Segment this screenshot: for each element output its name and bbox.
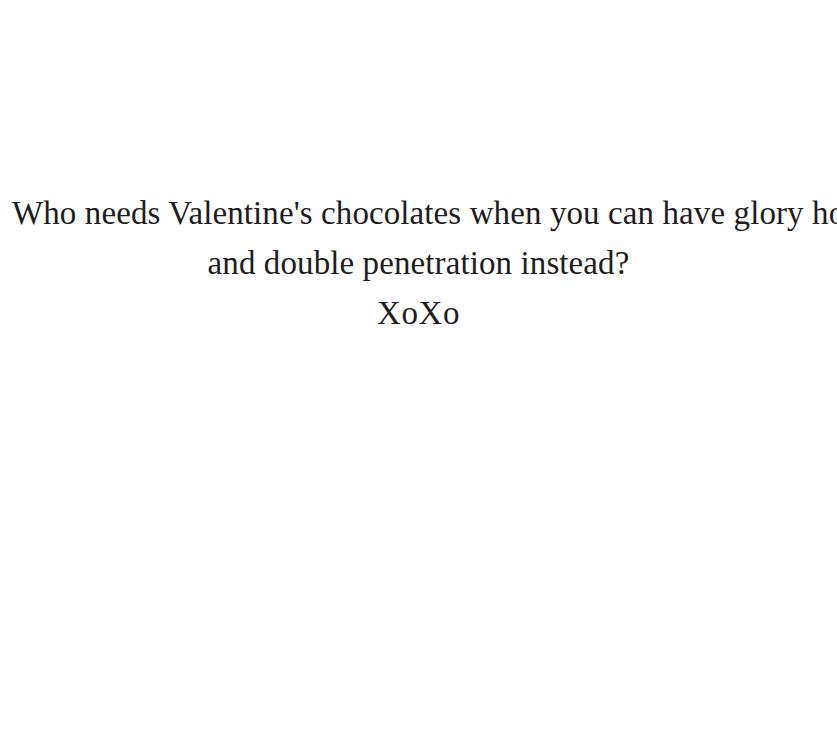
message-signoff: XoXo (0, 288, 837, 338)
blank-lower-area (0, 345, 837, 738)
image-canvas: Who needs Valentine's chocolates when yo… (0, 0, 837, 738)
message-line-1: Who needs Valentine's chocolates when yo… (0, 188, 837, 238)
card-message: Who needs Valentine's chocolates when yo… (0, 188, 837, 338)
message-line-2: and double penetration instead? (0, 238, 837, 288)
